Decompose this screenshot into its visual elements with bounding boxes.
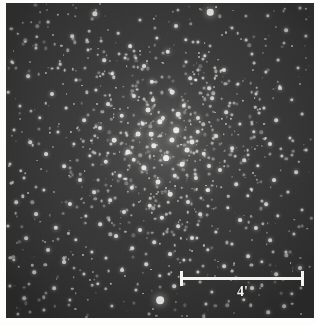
star-point-faint <box>91 284 93 286</box>
star-point-faint <box>254 106 257 109</box>
star-point-faint <box>34 109 35 110</box>
star-point-faint <box>100 40 103 43</box>
star-point-faint <box>244 177 246 179</box>
star-point <box>47 21 50 24</box>
star-point-faint <box>228 125 231 128</box>
star-point-faint <box>186 159 188 161</box>
star-point-faint <box>143 220 144 221</box>
star-point-faint <box>169 211 172 214</box>
star-point <box>90 250 93 253</box>
star-point-faint <box>308 171 310 173</box>
star-point-faint <box>129 179 132 182</box>
star-point-faint <box>94 197 98 201</box>
star-point-faint <box>34 43 37 46</box>
star-point-faint <box>290 262 292 264</box>
star-point-faint <box>204 313 206 315</box>
star-point-faint <box>36 24 39 27</box>
star-point-faint <box>140 200 142 202</box>
star-point-faint <box>153 18 155 20</box>
star-point <box>173 127 179 133</box>
star-point-faint <box>171 167 174 170</box>
star-point-faint <box>82 140 85 143</box>
star-point-faint <box>185 195 188 198</box>
star-point-faint <box>44 263 47 266</box>
star-point-faint <box>130 93 133 96</box>
star-point-faint <box>161 62 163 64</box>
star-point <box>74 238 77 241</box>
star-point-faint <box>211 129 214 132</box>
star-point-faint <box>212 133 215 136</box>
star-point <box>255 93 258 96</box>
star-point-faint <box>180 196 183 199</box>
star-point-faint <box>119 131 122 134</box>
star-point-faint <box>212 92 215 95</box>
star-point-faint <box>227 300 230 303</box>
star-point-faint <box>203 87 206 90</box>
star-point <box>290 292 293 295</box>
star-point-faint <box>132 75 133 76</box>
star-point-faint <box>115 87 117 89</box>
star-point-faint <box>38 127 41 130</box>
star-point-faint <box>221 118 223 120</box>
star-point-faint <box>17 313 20 316</box>
star-point-faint <box>214 304 217 307</box>
star-point-faint <box>203 154 206 157</box>
star-point-faint <box>155 184 157 186</box>
star-point <box>184 38 187 41</box>
star-point-faint <box>272 250 275 253</box>
star-point-faint <box>288 230 290 232</box>
star-point-faint <box>140 128 141 129</box>
star-point-faint <box>80 217 82 219</box>
star-point-faint <box>204 149 206 151</box>
star-point-faint <box>143 148 144 149</box>
star-point-faint <box>248 159 249 160</box>
star-point-faint <box>258 98 261 101</box>
star-point-faint <box>39 221 41 223</box>
star-point-faint <box>254 148 256 150</box>
star-point <box>250 286 254 290</box>
star-point-faint <box>149 125 152 128</box>
star-point-faint <box>113 108 115 110</box>
star-point-faint <box>158 205 161 208</box>
star-point-faint <box>132 114 135 117</box>
star-point-faint <box>119 108 121 110</box>
star-point-faint <box>162 193 163 194</box>
star-point-faint <box>284 157 287 160</box>
star-point-faint <box>113 153 115 155</box>
star-point-faint <box>57 126 59 128</box>
star-point-faint <box>239 168 242 171</box>
star-point-faint <box>240 38 242 40</box>
star-point <box>17 33 19 35</box>
star-point-faint <box>234 155 237 158</box>
star-point <box>50 92 54 96</box>
star-point-faint <box>265 45 268 48</box>
star-point-faint <box>42 41 45 44</box>
star-point-faint <box>62 83 64 85</box>
star-point-faint <box>19 308 21 310</box>
star-point-faint <box>176 257 179 260</box>
star-point-faint <box>127 191 129 193</box>
star-point-faint <box>233 262 235 264</box>
star-point-faint <box>154 217 157 220</box>
star-point <box>190 236 194 240</box>
star-point <box>62 164 66 168</box>
star-point-faint <box>37 143 40 146</box>
star-point-faint <box>145 169 148 172</box>
star-point-faint <box>61 212 64 215</box>
star-point-faint <box>60 44 62 46</box>
star-point-faint <box>136 88 139 91</box>
star-point-faint <box>260 199 263 202</box>
star-point-faint <box>231 270 234 273</box>
star-point-faint <box>17 265 20 268</box>
star-point-faint <box>256 122 257 123</box>
star-point-faint <box>34 3 37 6</box>
star-point-faint <box>120 217 121 218</box>
star-point-faint <box>34 185 37 188</box>
star-point-faint <box>146 67 149 70</box>
star-point-faint <box>167 76 170 79</box>
star-point-faint <box>28 69 31 72</box>
star-point-faint <box>93 127 95 129</box>
star-point-faint <box>247 44 251 48</box>
star-point-faint <box>97 137 100 140</box>
star-point-faint <box>280 292 283 295</box>
